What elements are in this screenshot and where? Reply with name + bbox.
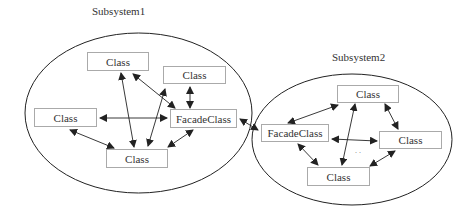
s1-class-right-top: Class bbox=[163, 66, 226, 84]
s1-class-top: Class bbox=[87, 52, 149, 71]
s2-class-top: Class bbox=[337, 85, 399, 103]
subsystem1-label: Subsystem1 bbox=[92, 5, 145, 17]
s1-facade-class: FacadeClass bbox=[170, 109, 237, 128]
s1-class-left: Class bbox=[34, 108, 97, 127]
s2-facade-class: FacadeClass bbox=[261, 124, 329, 142]
s2-ellipsis: . . bbox=[355, 146, 361, 155]
subsystem2-label: Subsystem2 bbox=[332, 51, 385, 63]
s2-class-right: Class bbox=[379, 131, 442, 149]
s2-class-bottom: Class bbox=[307, 167, 370, 186]
s1-class-bottom: Class bbox=[106, 149, 168, 168]
